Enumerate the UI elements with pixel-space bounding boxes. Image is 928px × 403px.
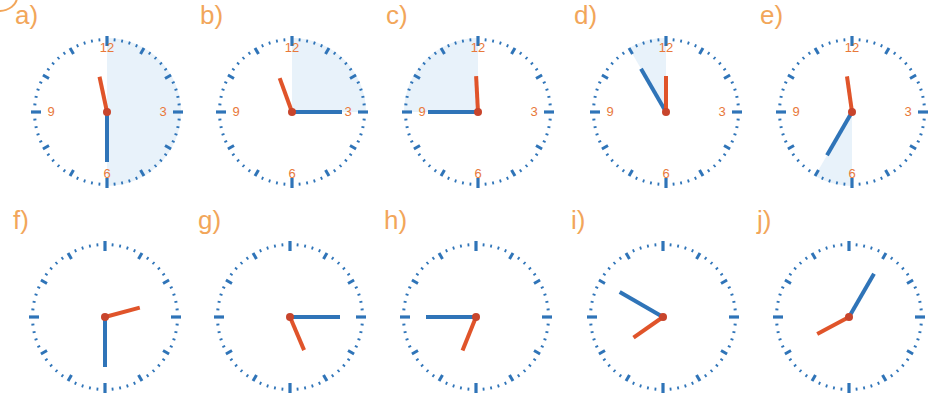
tick-mark xyxy=(906,359,908,361)
tick-mark xyxy=(794,365,796,367)
tick-mark xyxy=(918,302,921,303)
tick-mark xyxy=(779,294,782,295)
tick-mark xyxy=(871,385,872,388)
tick-mark xyxy=(878,249,879,252)
tick-mark xyxy=(806,374,808,376)
tick-mark xyxy=(812,253,816,259)
tick-mark xyxy=(834,245,835,248)
tick-mark xyxy=(907,280,913,284)
tick-mark xyxy=(834,386,835,389)
tick-mark xyxy=(891,257,893,259)
tick-mark xyxy=(878,382,879,385)
tick-mark xyxy=(789,274,791,276)
tick-mark xyxy=(906,274,908,276)
tick-mark xyxy=(902,267,904,269)
tick-mark xyxy=(781,346,784,347)
tick-mark xyxy=(914,346,917,347)
tick-mark xyxy=(785,280,791,284)
tick-mark xyxy=(883,253,887,259)
tick-mark xyxy=(781,287,784,288)
tick-mark xyxy=(907,351,913,355)
tick-mark xyxy=(883,375,887,381)
tick-mark xyxy=(897,370,899,372)
tick-mark xyxy=(789,359,791,361)
clock-face xyxy=(0,0,928,403)
tick-mark xyxy=(891,374,893,376)
tick-mark xyxy=(779,339,782,340)
tick-mark xyxy=(918,332,921,333)
tick-mark xyxy=(826,385,827,388)
tick-mark xyxy=(864,386,865,389)
tick-mark xyxy=(812,375,816,381)
tick-mark xyxy=(897,262,899,264)
tick-mark xyxy=(819,249,820,252)
tick-mark xyxy=(799,370,801,372)
tick-mark xyxy=(826,247,827,250)
tick-mark xyxy=(864,245,865,248)
tick-mark xyxy=(819,382,820,385)
hour-hand xyxy=(817,317,849,334)
tick-mark xyxy=(917,294,920,295)
tick-mark xyxy=(794,267,796,269)
tick-mark xyxy=(914,287,917,288)
minute-hand xyxy=(849,274,874,317)
tick-mark xyxy=(785,351,791,355)
tick-mark xyxy=(871,247,872,250)
tick-mark xyxy=(777,332,780,333)
tick-mark xyxy=(799,262,801,264)
center-pin xyxy=(845,313,853,321)
tick-mark xyxy=(902,365,904,367)
tick-mark xyxy=(806,257,808,259)
tick-mark xyxy=(917,339,920,340)
tick-mark xyxy=(777,302,780,303)
